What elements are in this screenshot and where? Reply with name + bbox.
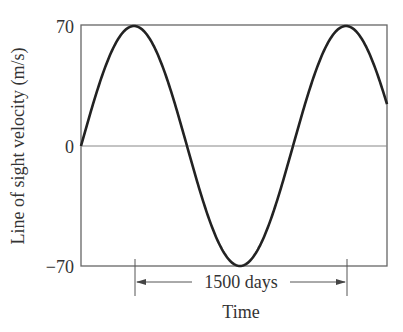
period-label: 1500 days: [204, 272, 278, 292]
ytick-70: 70: [56, 17, 74, 37]
chart: 70 0 −70 Line of sight velocity (m/s) 15…: [0, 0, 403, 332]
y-axis-label: Line of sight velocity (m/s): [8, 48, 29, 245]
arrowhead-right-icon: [336, 279, 346, 285]
ytick-neg70: −70: [46, 257, 74, 277]
x-axis-label: Time: [222, 302, 259, 322]
arrowhead-left-icon: [136, 279, 146, 285]
ytick-0: 0: [65, 137, 74, 157]
